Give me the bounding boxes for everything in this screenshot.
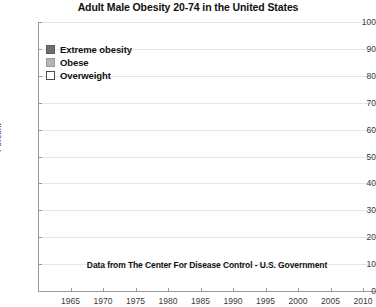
- y-tick-label: 50: [348, 152, 376, 162]
- y-tick-mark: [38, 291, 42, 292]
- x-tick-mark: [233, 288, 234, 292]
- gridline: [38, 210, 376, 211]
- y-tick-mark: [38, 22, 42, 23]
- chart-container: Adult Male Obesity 20-74 in the United S…: [0, 0, 376, 307]
- x-tick-label: 1965: [61, 296, 80, 306]
- legend-item-label: Overweight: [60, 70, 111, 81]
- legend-item: Extreme obesity: [46, 43, 132, 56]
- gridline: [38, 103, 376, 104]
- x-tick-label: 1990: [224, 296, 243, 306]
- y-tick-mark: [38, 76, 42, 77]
- x-tick-label: 1980: [159, 296, 178, 306]
- legend-swatch-icon: [46, 71, 55, 80]
- y-tick-mark: [38, 49, 42, 50]
- y-tick-label: 0: [348, 286, 376, 296]
- x-tick-mark: [266, 288, 267, 292]
- gridline: [38, 130, 376, 131]
- x-tick-label: 2010: [354, 296, 373, 306]
- y-tick-mark: [38, 237, 42, 238]
- chart-title: Adult Male Obesity 20-74 in the United S…: [0, 1, 376, 13]
- gridline: [38, 183, 376, 184]
- x-tick-label: 1985: [191, 296, 210, 306]
- y-tick-label: 90: [348, 44, 376, 54]
- legend-swatch-icon: [46, 58, 55, 67]
- source-caption: Data from The Center For Disease Control…: [38, 260, 376, 270]
- x-tick-label: 1970: [94, 296, 113, 306]
- x-tick-mark: [71, 288, 72, 292]
- legend-item-label: Extreme obesity: [60, 44, 132, 55]
- x-tick-label: 1975: [126, 296, 145, 306]
- y-tick-label: 30: [348, 205, 376, 215]
- x-tick-mark: [136, 288, 137, 292]
- x-tick-mark: [103, 288, 104, 292]
- x-tick-mark: [298, 288, 299, 292]
- gridline: [38, 22, 376, 23]
- x-tick-mark: [201, 288, 202, 292]
- y-tick-label: 100: [348, 17, 376, 27]
- x-tick-mark: [363, 288, 364, 292]
- x-tick-label: 2005: [321, 296, 340, 306]
- y-tick-label: 80: [348, 71, 376, 81]
- x-tick-mark: [168, 288, 169, 292]
- y-tick-label: 60: [348, 125, 376, 135]
- y-tick-label: 20: [348, 232, 376, 242]
- y-tick-mark: [38, 103, 42, 104]
- gridline: [38, 157, 376, 158]
- x-tick-mark: [331, 288, 332, 292]
- legend-item: Overweight: [46, 69, 132, 82]
- chart-legend: Extreme obesityObeseOverweight: [46, 43, 132, 82]
- y-tick-label: 40: [348, 178, 376, 188]
- legend-swatch-icon: [46, 45, 55, 54]
- y-tick-mark: [38, 130, 42, 131]
- x-axis-line: [38, 291, 376, 292]
- legend-item-label: Obese: [60, 57, 89, 68]
- y-axis-title: Percent: [0, 123, 3, 152]
- y-tick-label: 70: [348, 98, 376, 108]
- x-tick-label: 2000: [289, 296, 308, 306]
- legend-item: Obese: [46, 56, 132, 69]
- gridline: [38, 237, 376, 238]
- y-tick-mark: [38, 210, 42, 211]
- y-tick-mark: [38, 183, 42, 184]
- x-tick-label: 1995: [256, 296, 275, 306]
- y-tick-mark: [38, 157, 42, 158]
